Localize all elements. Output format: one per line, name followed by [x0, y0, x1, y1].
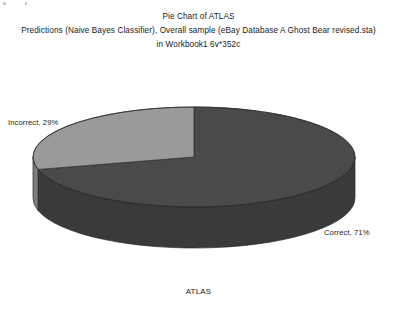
- slice-label-incorrect: Incorrect, 29%: [8, 118, 58, 127]
- pie-chart-graphic: [0, 0, 397, 310]
- pie-chart-window: Pie Chart of ATLAS Predictions (Naive Ba…: [0, 0, 397, 310]
- category-axis-label: ATLAS: [0, 287, 397, 296]
- slice-label-correct: Correct, 71%: [324, 228, 370, 237]
